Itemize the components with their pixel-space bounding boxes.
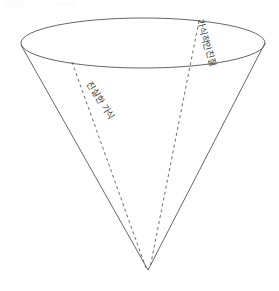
dashed-slant-right xyxy=(150,21,199,268)
cone-rim-ellipse xyxy=(21,18,265,68)
cone-shape xyxy=(0,0,279,291)
dashed-slant-left xyxy=(72,62,146,268)
cone-side-lines xyxy=(21,43,265,270)
cone-diagram-canvas: 가식적인친절 진실한 가식 xyxy=(0,0,279,291)
